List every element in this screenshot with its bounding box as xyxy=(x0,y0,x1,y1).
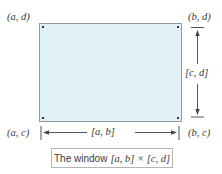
horizontal-interval-label: [a, b] xyxy=(90,127,116,138)
caption-box: The window [a, b] × [c, d] xyxy=(51,148,173,168)
horizontal-interval-text: [a, b] xyxy=(91,126,115,137)
caption-math: [a, b] × [c, d] xyxy=(110,153,170,164)
vertical-interval-label: [c, d] xyxy=(184,68,209,79)
window-diagram: (a, d) (b, d) (a, c) (b, c) [a, b] [c, d… xyxy=(0,0,222,174)
caption-prefix: The window xyxy=(54,153,107,164)
vertical-interval-text: [c, d] xyxy=(185,67,208,78)
